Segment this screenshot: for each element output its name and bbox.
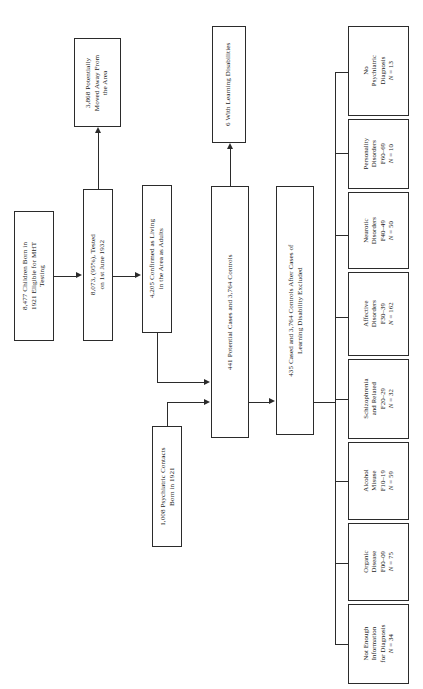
connector-tested-confirmed (113, 276, 136, 277)
arrowhead-potential-learningdis (227, 143, 233, 149)
bracket-arm-1 (335, 72, 349, 73)
connector-cohort-tested (54, 276, 77, 277)
diagnosis-text-2: PersonalityDisordersF60–69N = 10 (362, 138, 395, 170)
connector-afterexclusion-bracket (314, 402, 335, 403)
arrowhead-tested-movedaway (95, 127, 101, 133)
node-psychiatric-contacts: 1,008 Psychiatric Contacts Born in 1921 (152, 426, 182, 547)
node-tested: 8,073, (95%), Tested on 1st June 1932 (83, 189, 113, 341)
connector-psych-elbow-h (167, 402, 206, 403)
diagnosis-text-7: OrganicDiseaseF00–09N = 75 (362, 551, 395, 573)
diagnosis-text-1: NoPsychiatricDiagnosisN = 13 (362, 55, 395, 86)
node-diagnosis-neurotic-disorders: NeuroticDisordersF40–49N = 50 (348, 192, 409, 269)
connector-psych-elbow-v (167, 402, 168, 427)
arrowhead-cohort-tested (76, 272, 82, 278)
connector-potential-afterexclusion (249, 402, 270, 403)
node-diagnosis-personality-disorders: PersonalityDisordersF60–69N = 10 (348, 119, 409, 189)
node-after-exclusion: 435 Cased and 3,764 Controls After Cases… (276, 186, 314, 435)
node-potential-cases: 441 Potential Cases and 3,764 Controls (211, 186, 249, 438)
bracket-arm-5 (335, 399, 349, 400)
bracket-arm-8 (335, 644, 349, 645)
node-after-exclusion-label: 435 Cased and 3,764 Controls After Cases… (286, 244, 303, 376)
arrowhead-potential-afterexclusion (269, 398, 275, 404)
node-diagnosis-affective-disorders: AffectiveDisordersF30–39N = 162 (348, 272, 409, 356)
node-moved-away-label: 3,868 Potentially Moved Away From the Ar… (85, 54, 111, 110)
connector-tested-movedaway (98, 133, 99, 189)
node-learning-disabilities-label: 6 With Learning Disabilities (225, 43, 234, 126)
bracket-arm-7 (335, 563, 349, 564)
node-learning-disabilities: 6 With Learning Disabilities (212, 26, 246, 143)
connector-confirmed-elbow-v (157, 333, 158, 383)
arrowhead-psych-potential (204, 399, 210, 405)
node-confirmed-living: 4,205 Confirmed as Living in the Area as… (142, 185, 172, 333)
node-potential-cases-label: 441 Potential Cases and 3,764 Controls (226, 254, 235, 370)
node-diagnosis-organic-disease: OrganicDiseaseF00–09N = 75 (348, 523, 409, 601)
connector-confirmed-elbow-h (157, 382, 206, 383)
flowchart-canvas: 8,477 Children Born in 1921 Eligible for… (0, 0, 423, 689)
node-diagnosis-no-psychiatric-diagnosis: NoPsychiatricDiagnosisN = 13 (348, 26, 409, 116)
node-diagnosis-alcohol-misuse: AlcoholMisuseF10–19N = 59 (348, 442, 409, 520)
bracket-arm-3 (335, 235, 349, 236)
diagnosis-text-4: AffectiveDisordersF30–39N = 162 (362, 300, 395, 327)
node-psychiatric-contacts-label: 1,008 Psychiatric Contacts Born in 1921 (158, 447, 175, 525)
diagnosis-text-6: AlcoholMisuseF10–19N = 59 (362, 470, 395, 493)
bracket-arm-4 (335, 317, 349, 318)
bracket-arm-2 (335, 153, 349, 154)
node-diagnosis-not-enough-information: Not EnoughInformationfor DiagnosisN = 34 (348, 604, 409, 684)
bracket-arm-6 (335, 481, 349, 482)
node-tested-label: 8,073, (95%), Tested on 1st June 1932 (89, 234, 106, 295)
connector-potential-learningdis (230, 149, 231, 186)
arrowhead-confirmed-potential (204, 379, 210, 385)
node-diagnosis-schizophrenia-and-related: Schizophreniaand RelatedF20–29N = 32 (348, 359, 409, 439)
bracket-spine (335, 72, 336, 645)
node-confirmed-living-label: 4,205 Confirmed as Living in the Area as… (148, 219, 165, 298)
node-cohort: 8,477 Children Born in 1921 Eligible for… (14, 211, 54, 341)
node-moved-away: 3,868 Potentially Moved Away From the Ar… (74, 38, 121, 127)
diagnosis-text-5: Schizophreniaand RelatedF20–29N = 32 (362, 379, 395, 419)
diagnosis-text-3: NeuroticDisordersF40–49N = 50 (362, 217, 395, 244)
node-cohort-label: 8,477 Children Born in 1921 Eligible for… (21, 242, 47, 310)
diagnosis-text-8: Not EnoughInformationfor DiagnosisN = 34 (362, 625, 395, 663)
arrowhead-tested-confirmed (135, 272, 141, 278)
